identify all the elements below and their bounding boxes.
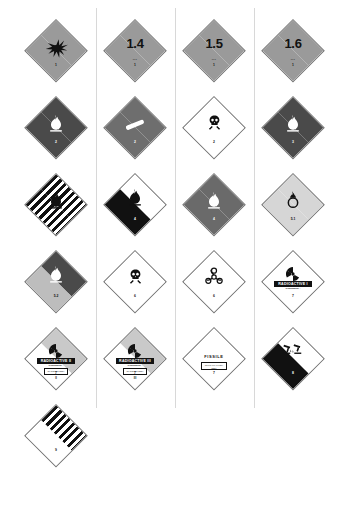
placard-border-oxidizer-5-1 (261, 172, 325, 236)
placard-border-spontaneously-combustible-4-2 (103, 172, 167, 236)
placard-cell-explosive-1[interactable]: 1 (16, 10, 95, 89)
placard-explosive-1-4[interactable]: 1.4•••1 (99, 14, 170, 85)
placard-cell-oxidizer-5-1[interactable]: 5.1 (253, 164, 332, 243)
placard-corrosive-8[interactable]: 8 (257, 322, 328, 393)
placard-cell-spontaneously-combustible-4-2[interactable]: 4 (95, 164, 174, 243)
placard-cell-toxic-6-1[interactable]: 6 (95, 241, 174, 320)
placard-toxic-6-1[interactable]: 6 (99, 245, 170, 316)
placard-infectious-6-2[interactable]: 6 (178, 245, 249, 316)
placard-organic-peroxide-5-2[interactable]: 5.2 (20, 245, 91, 316)
placard-cell-explosive-1-4[interactable]: 1.4•••1 (95, 10, 174, 89)
placard-cell-explosive-1-6[interactable]: 1.6•••1 (253, 10, 332, 89)
placard-cell-infectious-6-2[interactable]: 6 (174, 241, 253, 320)
placard-explosive-1-5[interactable]: 1.5•••1 (178, 14, 249, 85)
placard-radioactive-i-7[interactable]: RADIOACTIVE ICONTENTS...7 (257, 245, 328, 316)
placard-border-radioactive-ii-7 (24, 326, 88, 390)
placard-oxidizer-5-1[interactable]: 5.1 (257, 168, 328, 239)
placard-dangerous-when-wet-4-3[interactable]: 4 (178, 168, 249, 239)
placard-border-explosive-1 (24, 18, 88, 82)
placard-flammable-liquid-3[interactable]: 3 (257, 91, 328, 162)
placard-border-flammable-liquid-3 (261, 95, 325, 159)
placard-border-explosive-1-4 (103, 18, 167, 82)
placard-border-flammable-solid-4-1 (24, 172, 88, 236)
placard-border-toxic-gas-2 (182, 95, 246, 159)
placard-cell-dangerous-when-wet-4-3[interactable]: 4 (174, 164, 253, 243)
placard-cell-non-flammable-gas-2[interactable]: 2 (95, 87, 174, 166)
placard-border-dangerous-when-wet-4-3 (182, 172, 246, 236)
placard-border-flammable-gas-2 (24, 95, 88, 159)
placard-cell-toxic-gas-2[interactable]: 2 (174, 87, 253, 166)
placard-radioactive-ii-7[interactable]: RADIOACTIVE IICONTENTS...TRANSPORT INDEX… (20, 322, 91, 393)
placard-border-infectious-6-2 (182, 249, 246, 313)
placard-border-radioactive-iii-7 (103, 326, 167, 390)
placard-border-non-flammable-gas-2 (103, 95, 167, 159)
placard-cell-explosive-1-5[interactable]: 1.5•••1 (174, 10, 253, 89)
placard-cell-flammable-liquid-3[interactable]: 3 (253, 87, 332, 166)
placard-cell-miscellaneous-9[interactable]: 9 (16, 395, 95, 474)
placard-cell-radioactive-iii-7[interactable]: RADIOACTIVE IIICONTENTS...TRANSPORT INDE… (95, 318, 174, 397)
placard-spontaneously-combustible-4-2[interactable]: 4 (99, 168, 170, 239)
placard-cell-flammable-gas-2[interactable]: 2 (16, 87, 95, 166)
placard-non-flammable-gas-2[interactable]: 2 (99, 91, 170, 162)
placard-cell-radioactive-ii-7[interactable]: RADIOACTIVE IICONTENTS...TRANSPORT INDEX… (16, 318, 95, 397)
placard-border-corrosive-8 (261, 326, 325, 390)
placard-border-toxic-6-1 (103, 249, 167, 313)
placard-cell-organic-peroxide-5-2[interactable]: 5.2 (16, 241, 95, 320)
placard-border-miscellaneous-9 (24, 403, 88, 467)
placard-miscellaneous-9[interactable]: 9 (20, 399, 91, 470)
placard-radioactive-iii-7[interactable]: RADIOACTIVE IIICONTENTS...TRANSPORT INDE… (99, 322, 170, 393)
placard-border-radioactive-i-7 (261, 249, 325, 313)
placard-explosive-1[interactable]: 1 (20, 14, 91, 85)
placard-cell-radioactive-i-7[interactable]: RADIOACTIVE ICONTENTS...7 (253, 241, 332, 320)
placard-border-fissile-7 (182, 326, 246, 390)
placard-border-organic-peroxide-5-2 (24, 249, 88, 313)
placard-sheet: 11.4•••11.5•••11.6•••122234445.15.266RAD… (0, 0, 348, 505)
placard-border-explosive-1-6 (261, 18, 325, 82)
placard-border-explosive-1-5 (182, 18, 246, 82)
placard-explosive-1-6[interactable]: 1.6•••1 (257, 14, 328, 85)
placard-flammable-solid-4-1[interactable]: 4 (20, 168, 91, 239)
placard-cell-fissile-7[interactable]: FISSILECRITICALITY SAFETY INDEX7 (174, 318, 253, 397)
placard-cell-flammable-solid-4-1[interactable]: 4 (16, 164, 95, 243)
placard-cell-corrosive-8[interactable]: 8 (253, 318, 332, 397)
placard-fissile-7[interactable]: FISSILECRITICALITY SAFETY INDEX7 (178, 322, 249, 393)
placard-toxic-gas-2[interactable]: 2 (178, 91, 249, 162)
placard-flammable-gas-2[interactable]: 2 (20, 91, 91, 162)
